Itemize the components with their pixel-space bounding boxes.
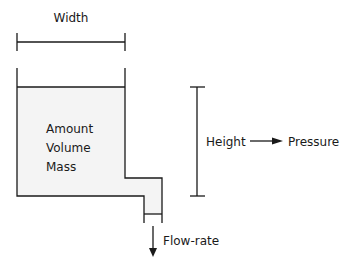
pressure-label: Pressure [288, 135, 339, 149]
flow-rate-label: Flow-rate [163, 234, 219, 248]
arrow-right-icon [272, 138, 283, 145]
height-label: Height [206, 135, 246, 149]
volume-label: Volume [46, 141, 91, 155]
mass-label: Mass [46, 160, 76, 174]
tank-diagram: Width Amount Volume Mass Flow-rate Heigh… [0, 0, 349, 273]
amount-label: Amount [46, 122, 93, 136]
flow-rate-indicator: Flow-rate [149, 226, 219, 257]
width-dimension: Width [17, 11, 125, 51]
height-dimension: Height Pressure [190, 87, 339, 196]
width-label: Width [54, 11, 89, 25]
arrow-down-icon [149, 248, 157, 257]
tank: Amount Volume Mass [17, 68, 162, 223]
